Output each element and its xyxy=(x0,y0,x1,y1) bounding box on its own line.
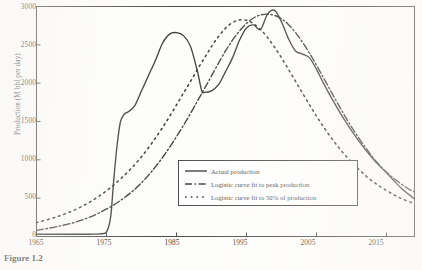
chart-figure: Production (M bbl per day) 0 500 1000 15… xyxy=(0,0,422,252)
chart-legend: Actual production Logistic curve fit to … xyxy=(178,160,358,206)
x-axis-tick-labels: 1965 1975 1985 1995 2005 2015 xyxy=(0,236,422,250)
plot-area xyxy=(0,0,422,252)
legend-label-actual-production: Actual production xyxy=(211,168,260,175)
x-tick-1965: 1965 xyxy=(16,238,56,247)
y-tick-500: 500 xyxy=(4,192,36,201)
x-tick-1995: 1995 xyxy=(220,238,260,247)
y-axis-tick-labels: 0 500 1000 1500 2000 2500 3000 xyxy=(0,0,36,236)
legend-label-peak-fit: Logistic curve fit to peak production xyxy=(211,181,310,188)
y-tick-2000: 2000 xyxy=(4,78,36,87)
x-tick-2005: 2005 xyxy=(288,238,328,247)
y-tick-1000: 1000 xyxy=(4,154,36,163)
y-tick-3000: 3000 xyxy=(4,2,36,11)
x-tick-1975: 1975 xyxy=(84,238,124,247)
legend-label-fifty-percent-fit: Logistic curve fit to 50% of production xyxy=(211,194,317,201)
x-tick-2015: 2015 xyxy=(356,238,396,247)
figure-caption: Figure 1.2 xyxy=(4,252,418,270)
y-tick-2500: 2500 xyxy=(4,40,36,49)
figure-panel: Production (M bbl per day) 0 500 1000 15… xyxy=(0,0,422,270)
y-tick-1500: 1500 xyxy=(4,116,36,125)
x-tick-1985: 1985 xyxy=(152,238,192,247)
